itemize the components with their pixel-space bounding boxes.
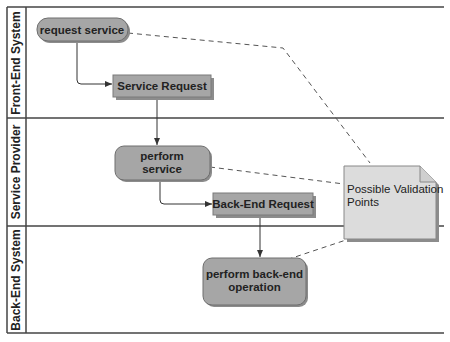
arrow-request-to-service-request — [77, 41, 112, 84]
activity-label-line1: perform — [140, 150, 183, 162]
note-fold-corner — [420, 166, 436, 182]
lane-label-front-end: Front-End System — [9, 11, 23, 114]
activity-label: request service — [40, 24, 124, 36]
arrow-perform-to-backend-request — [160, 180, 212, 204]
object-label: Back-End Request — [212, 198, 314, 210]
dashed-link-perform-backend — [289, 238, 352, 259]
lane-label-service-provider: Service Provider — [9, 124, 23, 219]
object-service-request[interactable]: Service Request — [113, 75, 214, 100]
activity-request-service[interactable]: request service — [37, 18, 130, 43]
object-backend-request[interactable]: Back-End Request — [212, 193, 316, 218]
note-text-line1: Possible Validation — [347, 183, 443, 195]
activity-perform-backend-operation[interactable]: perform back-end operation — [203, 258, 308, 307]
activity-perform-service[interactable]: perform service — [115, 146, 212, 182]
activity-label-line2: operation — [228, 281, 280, 293]
activity-label-line2: service — [142, 163, 182, 175]
note-possible-validation-points[interactable]: Possible Validation Points — [344, 166, 443, 242]
object-label: Service Request — [117, 80, 207, 92]
activity-label-line1: perform back-end — [206, 268, 303, 280]
dashed-link-perform-service — [210, 167, 344, 184]
note-text-line2: Points — [347, 196, 379, 208]
lane-label-back-end: Back-End System — [9, 229, 23, 330]
swimlane-diagram: Front-End System Service Provider Back-E… — [0, 0, 450, 342]
